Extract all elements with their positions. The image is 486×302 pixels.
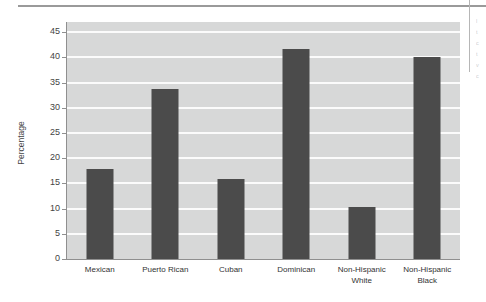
y-axis-tick-label: 45 — [20, 27, 60, 36]
bar-slot — [395, 22, 461, 259]
x-axis-tick-label-line: Black — [395, 275, 461, 286]
bar-slot — [67, 22, 133, 259]
x-axis-tick-label-line: Non-Hispanic — [329, 264, 395, 275]
x-axis-line — [66, 259, 460, 260]
y-axis-tick-mark — [62, 133, 67, 134]
y-axis-tick-mark — [62, 108, 67, 109]
y-axis-tick-label: 10 — [20, 204, 60, 213]
y-axis-tick-mark — [62, 32, 67, 33]
y-axis-tick-mark — [62, 234, 67, 235]
y-axis-tick-mark — [62, 57, 67, 58]
y-axis-tick-label: 25 — [20, 128, 60, 137]
bar-slot — [329, 22, 395, 259]
y-axis-tick-label: 40 — [20, 52, 60, 61]
y-axis-tick-label: 30 — [20, 103, 60, 112]
bar-chart-figure: 051015202530354045 Percentage MexicanPue… — [0, 0, 486, 302]
bar-slot — [198, 22, 264, 259]
y-axis-tick-label: 5 — [20, 229, 60, 238]
bar[interactable] — [283, 49, 310, 259]
x-axis-tick-label: Dominican — [264, 264, 330, 275]
x-axis-tick-labels: MexicanPuerto RicanCubanDominicanNon-His… — [67, 264, 460, 300]
y-axis-tick-label: 20 — [20, 153, 60, 162]
bar[interactable] — [414, 57, 441, 259]
y-axis-tick-label: 15 — [20, 178, 60, 187]
y-axis-tick-label: 35 — [20, 78, 60, 87]
page-root: ltctvc 051015202530354045 Percentage Mex… — [0, 0, 486, 302]
x-axis-tick-label: Mexican — [67, 264, 133, 275]
x-axis-tick-label: Puerto Rican — [133, 264, 199, 275]
plot-area — [67, 22, 460, 259]
x-axis-tick-label: Non-HispanicBlack — [395, 264, 461, 286]
x-axis-tick-label-line: Non-Hispanic — [395, 264, 461, 275]
y-axis-tick-label: 0 — [20, 254, 60, 263]
bar[interactable] — [348, 207, 375, 259]
x-axis-tick-label-line: White — [329, 275, 395, 286]
bar-slot — [133, 22, 199, 259]
y-axis-tick-mark — [62, 183, 67, 184]
bar-slot — [264, 22, 330, 259]
bar[interactable] — [86, 169, 113, 259]
y-axis-tick-mark — [62, 259, 67, 260]
x-axis-tick-label-line: Cuban — [198, 264, 264, 275]
x-axis-tick-label: Cuban — [198, 264, 264, 275]
bars-layer — [67, 22, 460, 259]
y-axis-tick-mark — [62, 158, 67, 159]
y-axis-tick-mark — [62, 209, 67, 210]
bar[interactable] — [152, 89, 179, 259]
x-axis-tick-label: Non-HispanicWhite — [329, 264, 395, 286]
y-axis-tick-mark — [62, 83, 67, 84]
x-axis-tick-label-line: Dominican — [264, 264, 330, 275]
bar[interactable] — [217, 179, 244, 259]
x-axis-tick-label-line: Puerto Rican — [133, 264, 199, 275]
y-axis-title: Percentage — [16, 103, 26, 183]
x-axis-tick-label-line: Mexican — [67, 264, 133, 275]
